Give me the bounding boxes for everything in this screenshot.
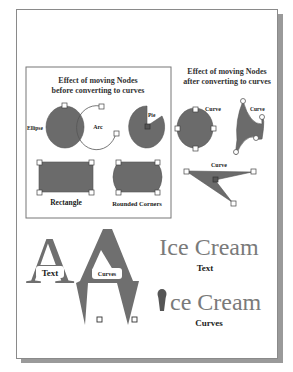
curve-circle-label: Curve <box>205 106 221 112</box>
node-handle[interactable] <box>213 177 218 182</box>
node-handle[interactable] <box>234 150 239 155</box>
node-handle[interactable] <box>211 126 216 131</box>
node-handle[interactable] <box>62 103 67 108</box>
node-handle[interactable] <box>251 169 256 174</box>
node-handle[interactable] <box>241 99 246 104</box>
ellipse-label: Ellipse <box>27 125 43 131</box>
rectangle-shape[interactable] <box>37 160 94 195</box>
rounded-rectangle-shape[interactable] <box>113 160 162 195</box>
after-panel-title-line1: Effect of moving Nodes <box>187 67 266 76</box>
letter-a-text[interactable]: A <box>25 222 74 298</box>
icecream-text-word[interactable]: Ice Cream <box>159 234 259 260</box>
node-handle[interactable] <box>116 190 121 195</box>
before-panel-title-line1: Effect of moving Nodes <box>58 76 137 85</box>
illustration-canvas: Effect of moving Nodes before converting… <box>0 0 293 372</box>
pie-shape[interactable] <box>129 106 165 148</box>
node-handle[interactable] <box>155 190 160 195</box>
node-handle[interactable] <box>193 107 198 112</box>
node-handle[interactable] <box>89 190 94 195</box>
pie-label: Pie <box>148 112 156 118</box>
ellipse-shape[interactable] <box>46 103 84 148</box>
letter-text-caption: Text <box>42 268 59 278</box>
node-handle[interactable] <box>175 126 180 131</box>
node-handle[interactable] <box>254 136 259 141</box>
node-handle[interactable] <box>37 190 42 195</box>
node-handle[interactable] <box>145 124 150 129</box>
icecream-curves-caption: Curves <box>195 318 223 328</box>
node-handle[interactable] <box>260 115 265 120</box>
arc-label: Arc <box>93 124 103 130</box>
icecream-text-caption: Text <box>197 263 214 273</box>
node-handle[interactable] <box>132 317 137 322</box>
curve-circle-shape[interactable] <box>175 107 216 151</box>
node-handle[interactable] <box>89 160 94 165</box>
icecream-cone-glyph[interactable] <box>158 289 167 311</box>
node-handle[interactable] <box>231 201 236 206</box>
node-handle[interactable] <box>155 160 160 165</box>
node-handle[interactable] <box>193 146 198 151</box>
node-handle[interactable] <box>184 169 189 174</box>
node-handle[interactable] <box>114 131 119 136</box>
curve-triangle-shape[interactable] <box>184 169 256 206</box>
icecream-curves-word[interactable]: ce Cream <box>170 289 262 315</box>
node-handle[interactable] <box>97 317 102 322</box>
node-handle[interactable] <box>37 160 42 165</box>
rounded-corners-label: Rounded Corners <box>112 200 162 207</box>
before-panel-title-line2: before converting to curves <box>52 86 145 95</box>
rectangle-label: Rectangle <box>50 198 82 207</box>
node-handle[interactable] <box>116 160 121 165</box>
curve-blob-label: Curve <box>250 106 265 112</box>
node-handle[interactable] <box>99 104 104 109</box>
curve-triangle-label: Curve <box>211 162 227 168</box>
after-panel-title-line2: after converting to curves <box>183 77 271 86</box>
letter-curves-caption: Curves <box>98 271 117 277</box>
